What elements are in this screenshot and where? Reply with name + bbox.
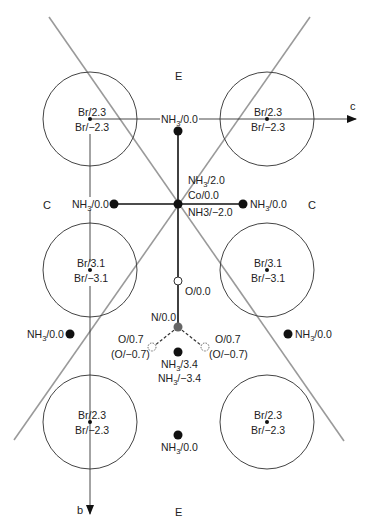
- bond-n-o-left: [154, 327, 178, 346]
- label-cobalt: Co/0.0: [188, 189, 219, 201]
- label-nitrogen: N/0.0: [151, 311, 176, 323]
- bromide-label-bot-left-lower: Br/−2.3: [75, 424, 109, 436]
- axis-label-b: b: [77, 504, 83, 516]
- axis-label-c: c: [350, 100, 356, 112]
- atom-oxygen-right: [201, 343, 209, 351]
- label-nh3-center-lower-pre: NH: [158, 372, 173, 384]
- label-nh3-top-post: /0.0: [180, 113, 198, 125]
- label-nh3-bottom: NH3/0.0: [161, 441, 198, 456]
- label-nh3-axial-up: NH3/2.0: [188, 174, 225, 189]
- label-nh3-center-upper: NH3/3.4: [161, 358, 198, 373]
- label-nh3-center-upper-post: /3.4: [180, 358, 198, 370]
- label-oxygen-right-upper: O/0.7: [215, 333, 241, 345]
- region-label-left: C: [43, 199, 51, 211]
- label-oxygen-left-lower: (O/−0.7): [111, 348, 150, 360]
- atom-nh3-bottom: [174, 431, 183, 440]
- label-nh3-mid-right: NH3/0.0: [295, 328, 332, 343]
- atom-nh3-right: [239, 200, 248, 209]
- bond-n-o-right: [178, 327, 202, 346]
- label-nh3-left-post: /0.0: [91, 198, 109, 210]
- label-nh3-mid-right-post: /0.0: [314, 328, 332, 340]
- label-nh3-axial-up-post: /2.0: [207, 174, 225, 186]
- label-nh3-top: NH3/0.0: [161, 113, 198, 128]
- label-nh3-top-pre: NH: [161, 113, 176, 125]
- label-nh3-axial-up-pre: NH: [188, 174, 203, 186]
- label-nh3-right-post: /0.0: [269, 198, 287, 210]
- label-nh3-bottom-post: /0.0: [180, 441, 198, 453]
- bromide-label-top-left-upper: Br/2.3: [78, 106, 106, 118]
- atom-nh3-left: [110, 200, 119, 209]
- label-nh3-center-lower: NH3/−3.4: [158, 372, 201, 387]
- bromide-label-bot-right-lower: Br/−2.3: [251, 424, 285, 436]
- label-oxygen-right-lower: (O/−0.7): [209, 348, 248, 360]
- bromide-label-bot-right-upper: Br/2.3: [254, 409, 282, 421]
- bromide-label-top-right-upper: Br/2.3: [254, 106, 282, 118]
- atom-nh3-mid-right: [284, 330, 293, 339]
- label-nh3-mid-left: NH3/0.0: [27, 328, 64, 343]
- label-nh3-axial-down: NH3/−2.0: [188, 206, 233, 218]
- bromide-label-mid-right-lower: Br/−3.1: [251, 272, 285, 284]
- crystal-structure-diagram: E E C C c b Br/2.3 Br/−2.3 Br/2.3 Br/−2.…: [0, 0, 372, 528]
- bromide-label-bot-left-upper: Br/2.3: [78, 409, 106, 421]
- bromide-label-mid-left-upper: Br/3.1: [77, 257, 105, 269]
- bromide-label-top-left-lower: Br/−2.3: [75, 121, 109, 133]
- label-nh3-mid-left-post: /0.0: [46, 328, 64, 340]
- atom-nh3-center: [174, 348, 183, 357]
- region-label-bottom: E: [175, 506, 182, 518]
- atom-nitrogen: [174, 323, 183, 332]
- atom-nh3-mid-left: [66, 330, 75, 339]
- label-nh3-right-pre: NH: [250, 198, 265, 210]
- label-nh3-right: NH3/0.0: [250, 198, 287, 213]
- label-nh3-left-pre: NH: [72, 198, 87, 210]
- atom-cobalt: [174, 200, 183, 209]
- label-oxygen-linked: O/0.0: [185, 285, 211, 297]
- bromide-label-top-right-lower: Br/−2.3: [251, 121, 285, 133]
- region-label-right: C: [308, 199, 316, 211]
- bromide-label-mid-left-lower: Br/−3.1: [74, 272, 108, 284]
- label-nh3-center-upper-pre: NH: [161, 358, 176, 370]
- label-nh3-mid-left-pre: NH: [27, 328, 42, 340]
- label-nh3-center-lower-post: /−3.4: [177, 372, 201, 384]
- label-nh3-bottom-pre: NH: [161, 441, 176, 453]
- atom-oxygen-linked: [174, 277, 182, 285]
- bromide-label-mid-right-upper: Br/3.1: [254, 257, 282, 269]
- label-nh3-left: NH3/0.0: [72, 198, 109, 213]
- label-nh3-mid-right-pre: NH: [295, 328, 310, 340]
- label-oxygen-left-upper: O/0.7: [118, 333, 144, 345]
- region-label-top: E: [175, 70, 182, 82]
